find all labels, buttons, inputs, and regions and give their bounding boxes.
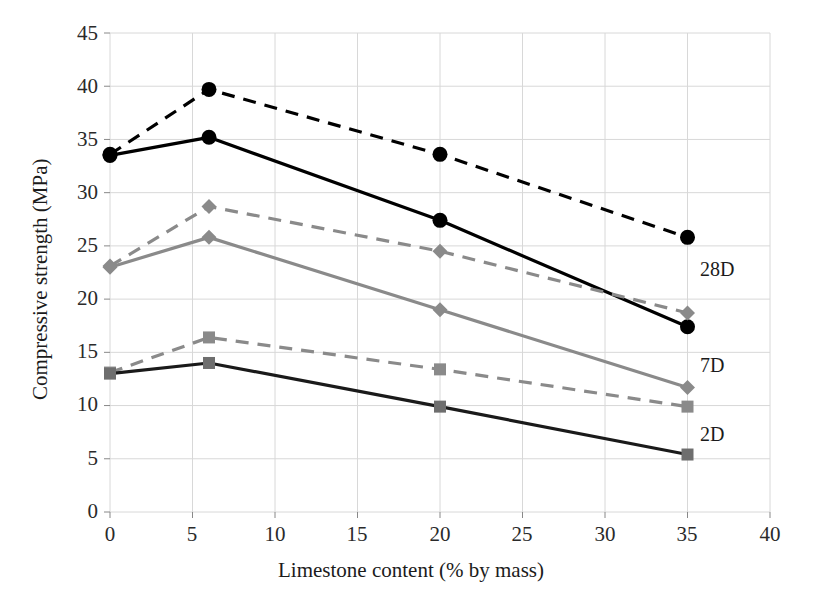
data-point-diamond: [680, 380, 695, 395]
data-point-square: [104, 368, 116, 380]
x-tick-label-25: 25: [492, 524, 552, 545]
x-tick-label-30: 30: [575, 524, 635, 545]
y-tick-label-10: 10: [50, 394, 98, 415]
data-point-circle: [680, 319, 695, 334]
chart-container: 45 40 35 30 25 20 15 10 5 0 0 5 10 15 20…: [0, 0, 822, 607]
x-tick-label-40: 40: [740, 524, 800, 545]
data-point-circle: [202, 82, 217, 97]
data-point-circle: [680, 230, 695, 245]
y-tick-label-30: 30: [50, 182, 98, 203]
series-line: [110, 337, 688, 406]
x-tick-label-10: 10: [245, 524, 305, 545]
data-point-square: [682, 401, 694, 413]
data-point-diamond: [433, 302, 448, 317]
y-tick-label-5: 5: [50, 448, 98, 469]
data-point-circle: [433, 213, 448, 228]
data-point-diamond: [202, 230, 217, 245]
series-7D-solid: [103, 230, 696, 395]
series-label-2d: 2D: [700, 424, 724, 444]
data-point-diamond: [680, 305, 695, 320]
y-tick-label-40: 40: [50, 76, 98, 97]
x-tick-label-35: 35: [657, 524, 717, 545]
y-tick-label-35: 35: [50, 129, 98, 150]
y-tick-label-45: 45: [50, 23, 98, 44]
x-tick-label-0: 0: [80, 524, 140, 545]
y-tick-label-25: 25: [50, 235, 98, 256]
series-label-28d: 28D: [700, 259, 734, 279]
chart-plot-area: [0, 0, 822, 607]
gridlines: [110, 33, 770, 512]
data-point-circle: [433, 147, 448, 162]
data-point-square: [434, 401, 446, 413]
data-point-circle: [103, 148, 118, 163]
x-tick-label-15: 15: [327, 524, 387, 545]
y-tick-label-15: 15: [50, 341, 98, 362]
series-label-7d: 7D: [700, 355, 724, 375]
data-point-square: [203, 331, 215, 343]
series-28D-dashed: [103, 82, 696, 245]
data-point-square: [203, 357, 215, 369]
axis-ticks: [104, 33, 770, 518]
y-tick-label-0: 0: [50, 501, 98, 522]
data-point-square: [682, 449, 694, 461]
y-tick-label-20: 20: [50, 288, 98, 309]
data-point-circle: [202, 130, 217, 145]
data-point-square: [434, 363, 446, 375]
x-axis-title: Limestone content (% by mass): [0, 560, 822, 581]
x-tick-label-5: 5: [162, 524, 222, 545]
series-7D-dashed: [103, 199, 696, 320]
y-axis-title: Compressive strength (MPa): [30, 159, 51, 400]
series-28D-solid: [103, 130, 696, 334]
x-tick-label-20: 20: [410, 524, 470, 545]
data-point-diamond: [202, 199, 217, 214]
series-line: [110, 363, 688, 455]
